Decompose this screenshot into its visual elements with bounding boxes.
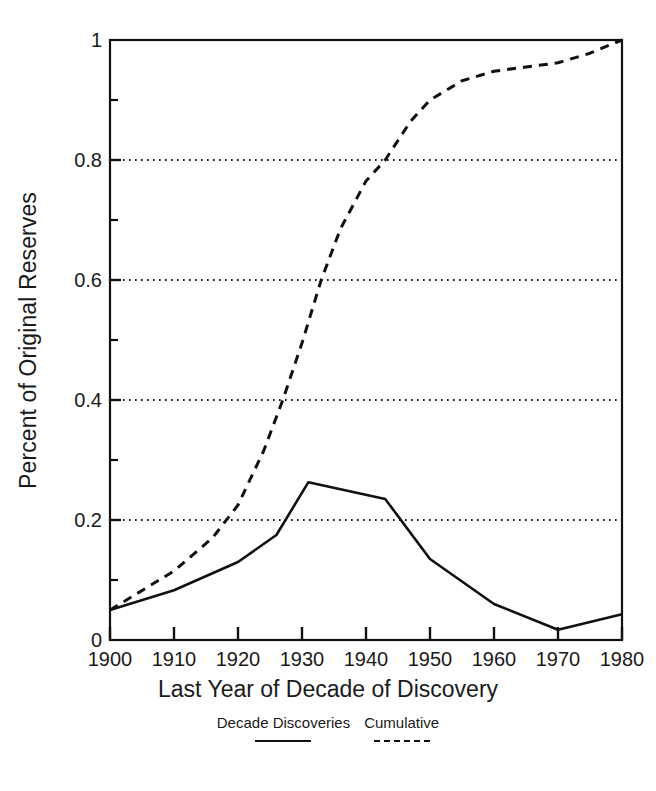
chart-figure: Percent of Original Reserves 00.20.40.60…: [0, 0, 656, 791]
x-axis-tick-labels: 190019101920193019401950196019701980: [0, 0, 656, 791]
chart-legend: Decade DiscoveriesCumulative: [0, 714, 656, 742]
legend-swatch-dashed: [374, 740, 430, 742]
legend-label: Cumulative: [364, 714, 439, 731]
x-tick-label: 1980: [582, 648, 656, 670]
legend-entry: Cumulative: [364, 714, 439, 742]
legend-entry: Decade Discoveries: [217, 714, 350, 742]
legend-label: Decade Discoveries: [217, 714, 350, 731]
legend-swatch-solid: [255, 740, 311, 742]
x-axis-title: Last Year of Decade of Discovery: [0, 676, 656, 703]
